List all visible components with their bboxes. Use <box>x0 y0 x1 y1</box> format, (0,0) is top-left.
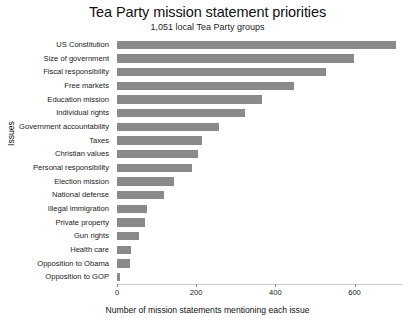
y-axis-category-labels: US ConstitutionSize of governmentFiscal … <box>0 38 113 284</box>
y-axis-label: Individual rights <box>0 109 109 117</box>
bar-row <box>117 134 402 148</box>
bar-row <box>117 229 402 243</box>
bar-row <box>117 52 402 66</box>
bar-row <box>117 106 402 120</box>
x-axis-line <box>117 284 402 285</box>
y-axis-label: Opposition to Obama <box>0 260 109 268</box>
x-axis-tick-label: 0 <box>97 288 137 297</box>
chart-title: Tea Party mission statement priorities <box>0 4 415 20</box>
bar <box>117 177 174 185</box>
x-axis-tick-label: 400 <box>255 288 295 297</box>
x-axis-title: Number of mission statements mentioning … <box>0 305 415 315</box>
y-axis-title: Issues <box>6 121 16 146</box>
bar-row <box>117 188 402 202</box>
bar <box>117 191 164 199</box>
bar-row <box>117 161 402 175</box>
x-axis-tick <box>196 284 197 287</box>
bar <box>117 259 130 267</box>
bar-row <box>117 175 402 189</box>
bar <box>117 109 245 117</box>
y-axis-label: Election mission <box>0 178 109 186</box>
bar-row <box>117 120 402 134</box>
y-axis-label: Christian values <box>0 150 109 158</box>
y-axis-label: Size of government <box>0 55 109 63</box>
y-axis-label: Free markets <box>0 82 109 90</box>
chart-subtitle: 1,051 local Tea Party groups <box>0 22 415 32</box>
x-axis-tick <box>355 284 356 287</box>
bar <box>117 205 147 213</box>
x-axis-tick-label: 600 <box>335 288 375 297</box>
y-axis-label: Government accountability <box>0 123 109 131</box>
bar-row <box>117 243 402 257</box>
bar-row <box>117 270 402 284</box>
plot-area <box>117 38 402 284</box>
x-axis-tick <box>275 284 276 287</box>
bar <box>117 273 120 281</box>
bar-row <box>117 38 402 52</box>
bar <box>117 41 396 49</box>
y-axis-label: Illegal immigration <box>0 205 109 213</box>
y-axis-label: National defense <box>0 191 109 199</box>
bar-row <box>117 257 402 271</box>
bar <box>117 123 219 131</box>
y-axis-label: US Constitution <box>0 41 109 49</box>
y-axis-label: Personal responsibility <box>0 164 109 172</box>
bar <box>117 68 326 76</box>
bar <box>117 82 294 90</box>
y-axis-label: Gun rights <box>0 232 109 240</box>
bar <box>117 54 354 62</box>
y-axis-label: Taxes <box>0 137 109 145</box>
bar <box>117 218 145 226</box>
y-axis-label: Health care <box>0 246 109 254</box>
bar-row <box>117 93 402 107</box>
bar <box>117 136 202 144</box>
bar <box>117 232 139 240</box>
bar-row <box>117 202 402 216</box>
bar-row <box>117 216 402 230</box>
bar <box>117 150 198 158</box>
bar-chart: Tea Party mission statement priorities 1… <box>0 0 415 326</box>
bar <box>117 246 131 254</box>
x-axis-tick <box>117 284 118 287</box>
bar <box>117 95 262 103</box>
x-axis-tick-label: 200 <box>176 288 216 297</box>
y-axis-label: Education mission <box>0 96 109 104</box>
y-axis-label: Private property <box>0 219 109 227</box>
bar-row <box>117 65 402 79</box>
bar <box>117 164 192 172</box>
bar-row <box>117 147 402 161</box>
y-axis-label: Fiscal responsibility <box>0 68 109 76</box>
y-axis-label: Opposition to GOP <box>0 273 109 281</box>
bar-row <box>117 79 402 93</box>
